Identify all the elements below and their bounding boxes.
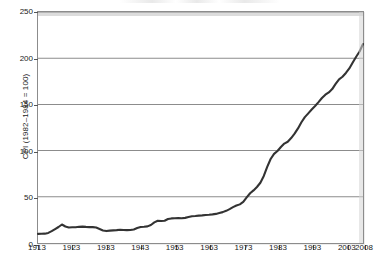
y-tick-label: 100 bbox=[0, 147, 33, 156]
y-tick-label: 150 bbox=[0, 100, 33, 109]
y-tick-label: 200 bbox=[0, 54, 33, 63]
cpi-series-line bbox=[38, 44, 363, 234]
x-tick-label: 2008 bbox=[334, 243, 379, 252]
cpi-line-chart: CPI (1982–1984 = 100) 050100150200250191… bbox=[0, 0, 379, 277]
cut-off-caption-sliver bbox=[120, 0, 280, 3]
series-canvas bbox=[38, 12, 363, 243]
y-tick-mark bbox=[34, 198, 38, 199]
y-tick-mark bbox=[34, 12, 38, 13]
y-tick-label: 50 bbox=[0, 193, 33, 202]
y-tick-mark bbox=[34, 59, 38, 60]
y-tick-mark bbox=[34, 152, 38, 153]
plot-area bbox=[37, 11, 364, 244]
y-tick-mark bbox=[34, 105, 38, 106]
gridlines-group bbox=[38, 12, 363, 197]
y-tick-label: 250 bbox=[0, 7, 33, 16]
